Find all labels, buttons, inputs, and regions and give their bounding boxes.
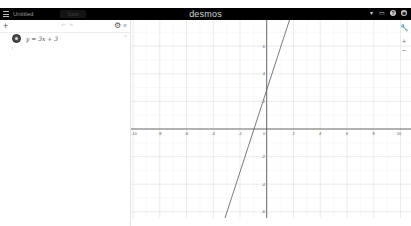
language-icon[interactable]: ⊕ — [401, 10, 407, 16]
expression-panel: + ↶ ↷ ⚙ « y = 3x + 3 × — [0, 20, 131, 226]
svg-text:0: 0 — [263, 131, 266, 136]
redo-icon[interactable]: ↷ — [69, 22, 73, 28]
svg-text:-4: -4 — [212, 131, 216, 136]
undo-icon[interactable]: ↶ — [61, 22, 65, 28]
minor-grid — [131, 20, 411, 218]
delete-expression-icon[interactable]: × — [124, 33, 127, 39]
expression-row[interactable]: y = 3x + 3 × — [0, 32, 130, 47]
svg-text:-6: -6 — [185, 131, 189, 136]
svg-text:10: 10 — [397, 131, 402, 136]
svg-text:4: 4 — [319, 131, 322, 136]
zoom-in-button[interactable]: + — [400, 38, 408, 46]
graph-svg: -10 -8 -6 -4 -2 2 4 6 8 10 0 6 4 2 -2 -4… — [131, 20, 411, 218]
svg-text:-8: -8 — [158, 131, 162, 136]
fullscreen-icon[interactable]: ▭ — [379, 10, 385, 16]
svg-text:2: 2 — [292, 131, 295, 136]
svg-text:-10: -10 — [131, 131, 138, 136]
wrench-icon[interactable]: 🔧 — [400, 24, 408, 32]
svg-text:8: 8 — [373, 131, 376, 136]
svg-text:-2: -2 — [238, 131, 242, 136]
collapse-panel-icon[interactable]: « — [123, 21, 127, 31]
help-icon[interactable]: ? — [390, 10, 396, 16]
gear-icon[interactable]: ⚙ — [114, 21, 121, 31]
svg-text:6: 6 — [346, 131, 349, 136]
expression-input[interactable]: y = 3x + 3 — [26, 34, 58, 43]
add-expression-button[interactable]: + — [3, 21, 8, 31]
empty-expression-row[interactable] — [12, 47, 13, 50]
desmos-logo: desmos — [0, 8, 411, 20]
share-icon[interactable]: ▾ — [368, 10, 374, 16]
plot-line-y-3x-plus-3 — [225, 20, 290, 218]
expression-color-icon[interactable] — [12, 34, 21, 43]
top-bar: Untitled Save desmos ▾ ▭ ? ⊕ — [0, 8, 411, 20]
zoom-out-button[interactable]: − — [400, 47, 408, 55]
graph-canvas[interactable]: -10 -8 -6 -4 -2 2 4 6 8 10 0 6 4 2 -2 -4… — [131, 20, 411, 218]
